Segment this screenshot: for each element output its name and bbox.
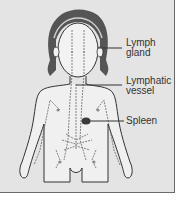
spleen <box>82 118 91 125</box>
label-lymphatic-vessel-line2: vessel <box>126 86 171 96</box>
label-lymphatic-vessel: Lymphatic vessel <box>126 76 171 96</box>
label-spleen: Spleen <box>126 116 157 126</box>
label-lymph-gland-line2: gland <box>126 48 156 58</box>
child-figure <box>0 0 179 201</box>
label-spleen-line1: Spleen <box>126 116 157 126</box>
label-lymph-gland: Lymph gland <box>126 38 156 58</box>
face <box>58 23 98 77</box>
